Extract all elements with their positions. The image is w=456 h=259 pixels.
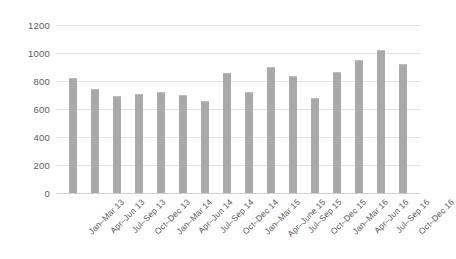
- y-axis-tick-label: 1000: [28, 48, 50, 59]
- bar-slot: [282, 25, 304, 193]
- y-axis-tick-label: 200: [34, 160, 50, 171]
- bar: [311, 98, 319, 193]
- bar-series: [56, 25, 420, 193]
- y-axis-tick-label: 600: [34, 104, 50, 115]
- bar-slot: [238, 25, 260, 193]
- bar: [69, 78, 77, 193]
- y-axis-tick-label: 1200: [28, 20, 50, 31]
- bar: [289, 76, 297, 193]
- bar: [157, 92, 165, 194]
- plot-area: [56, 25, 420, 193]
- bar: [223, 73, 231, 193]
- y-axis-tick-label: 400: [34, 132, 50, 143]
- bar-slot: [392, 25, 414, 193]
- bar-slot: [150, 25, 172, 193]
- bar: [91, 89, 99, 193]
- bar-slot: [172, 25, 194, 193]
- bar: [135, 94, 143, 193]
- bar: [377, 50, 385, 194]
- bar-slot: [326, 25, 348, 193]
- bar-slot: [370, 25, 392, 193]
- bar-slot: [128, 25, 150, 193]
- bar-slot: [260, 25, 282, 193]
- bar: [113, 96, 121, 193]
- bar: [355, 60, 363, 193]
- bar: [245, 92, 253, 194]
- y-axis-tick-label: 0: [45, 188, 50, 199]
- bar-slot: [106, 25, 128, 193]
- y-axis-tick-label: 800: [34, 76, 50, 87]
- y-axis: 120010008006004002000: [0, 25, 50, 193]
- bar-slot: [194, 25, 216, 193]
- bar-slot: [62, 25, 84, 193]
- x-axis: Jan–Mar 13Apr–Jun 13Jul–Sep 13Oct–Dec 13…: [56, 195, 420, 257]
- bar: [267, 67, 275, 193]
- bar: [399, 64, 407, 193]
- bar-slot: [304, 25, 326, 193]
- bar: [333, 72, 341, 193]
- gridline: [56, 193, 420, 194]
- bar-slot: [84, 25, 106, 193]
- bar: [179, 95, 187, 193]
- bar-slot: [348, 25, 370, 193]
- bar: [201, 101, 209, 193]
- bar-slot: [216, 25, 238, 193]
